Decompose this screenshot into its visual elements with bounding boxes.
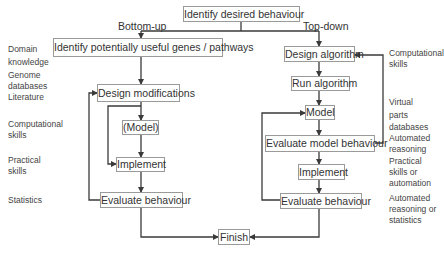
annotation-automated-reasoning: Automated reasoning — [389, 133, 430, 155]
annotation-line: reasoning or — [389, 204, 436, 215]
annotation-domain-knowledge: Domain knowledge — [8, 44, 49, 68]
annotation-line: Computational — [8, 119, 63, 130]
top-down-label: Top-down — [303, 20, 349, 32]
implement-box-left: Implement — [116, 157, 165, 172]
design-algorithm-box: Design algorithm — [284, 46, 355, 62]
annotation-line: Statistics — [8, 195, 42, 206]
implement-box-right: Implement — [298, 164, 345, 180]
annotation-line: databases — [389, 121, 428, 134]
annotation-line: skills — [389, 59, 444, 70]
model-box: Model — [305, 105, 335, 120]
bottom-up-label: Bottom-up — [118, 20, 166, 32]
annotation-line: Automated — [389, 133, 430, 144]
annotation-line: parts — [389, 109, 428, 122]
annotation-line: skills or — [389, 167, 431, 178]
evaluate-behaviour-box-right: Evaluate behaviour — [280, 193, 362, 209]
annotation-line: Genome — [8, 70, 47, 81]
identify-genes-box: Identify potentially useful genes / path… — [53, 38, 223, 57]
annotation-line: skills — [8, 166, 41, 177]
annotation-practical-skills-or-automation: Practical skills or automation — [389, 156, 431, 189]
annotation-line: Practical — [8, 155, 41, 166]
evaluate-model-behaviour-box: Evaluate model behaviour — [265, 135, 375, 152]
annotation-genome-databases-literature: Genome databases Literature — [8, 70, 47, 103]
annotation-virtual-parts-databases: Virtual parts databases — [389, 96, 428, 134]
annotation-line: skills — [8, 130, 63, 141]
design-modifications-box: Design modifications — [97, 84, 180, 102]
annotation-line: reasoning — [389, 144, 430, 155]
annotation-line: databases — [8, 81, 47, 92]
annotation-line: Practical — [389, 156, 431, 167]
annotation-line: Computational — [389, 48, 444, 59]
annotation-practical-skills: Practical skills — [8, 155, 41, 177]
annotation-line: automation — [389, 178, 431, 189]
annotation-line: knowledge — [8, 57, 49, 68]
annotation-line: Virtual — [389, 96, 428, 109]
annotation-computational-skills: Computational skills — [8, 119, 63, 141]
identify-desired-behaviour-box: Identify desired behaviour — [183, 6, 300, 22]
annotation-line: Domain — [8, 44, 49, 55]
evaluate-behaviour-box-left: Evaluate behaviour — [100, 192, 183, 208]
annotation-statistics: Statistics — [8, 195, 42, 206]
annotation-line: Literature — [8, 92, 47, 103]
optional-model-box: (Model) — [122, 120, 159, 135]
annotation-line: Automated — [389, 193, 436, 204]
run-algorithm-box: Run algorithm — [291, 76, 350, 91]
annotation-computational-skills-right: Computational skills — [389, 48, 444, 70]
finish-box: Finish — [218, 229, 250, 245]
annotation-automated-reasoning-or-statistics: Automated reasoning or statistics — [389, 193, 436, 226]
annotation-line: statistics — [389, 215, 436, 226]
